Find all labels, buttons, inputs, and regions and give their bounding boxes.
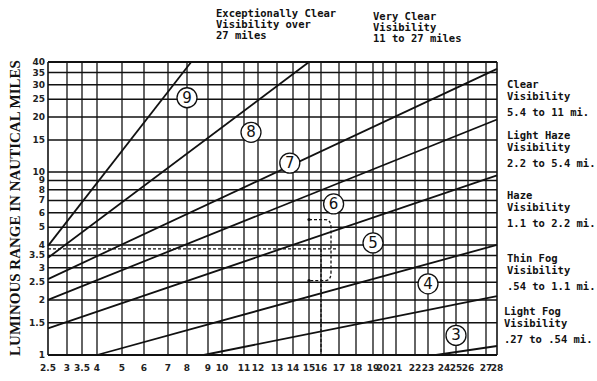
x-tick-label: 26 (462, 363, 475, 373)
annotation-line: Visibility (507, 141, 571, 153)
annotation-light-haze: Light HazeVisibility2.2 to 5.4 mi. (507, 129, 596, 169)
x-tick-label: 9 (205, 363, 211, 373)
x-tick-label: 21 (390, 363, 403, 373)
y-tick-label: 8 (39, 185, 45, 195)
x-tick-label: 16 (315, 363, 328, 373)
annotation-line: .54 to 1.1 mi. (507, 280, 596, 292)
x-tick-label: 28 (491, 363, 504, 373)
y-tick-label: 10 (32, 167, 45, 177)
x-tick-label: 11 (238, 363, 251, 373)
curve-label-number: 5 (368, 234, 378, 252)
annotations: Exceptionally ClearVisibility over27 mil… (216, 7, 596, 345)
series-line-unlabeled (436, 346, 497, 355)
curve-label-7: 7 (280, 153, 300, 173)
y-axis-label: LUMINOUS RANGE IN NAUTICAL MILES (7, 60, 23, 356)
y-tick-label: 3.5 (29, 250, 45, 260)
y-tick-label: 2 (39, 295, 45, 305)
x-tick-label: 3.5 (74, 363, 90, 373)
curve-label-4: 4 (418, 274, 438, 294)
annotation-light-fog: Light FogVisibility.27 to .54 mi. (504, 305, 593, 345)
x-tick-label: 13 (271, 363, 284, 373)
x-tick-label: 2.5 (40, 363, 56, 373)
annotation-line: 2.2 to 5.4 mi. (507, 157, 596, 169)
x-tick-label: 23 (422, 363, 435, 373)
y-tick-label: 6 (39, 208, 45, 218)
x-tick-labels: 2.533.5456789101112131415161718192021222… (40, 363, 503, 373)
x-tick-label: 10 (216, 363, 229, 373)
annotation-line: Thin Fog (507, 252, 558, 264)
curve-label-8: 8 (241, 122, 261, 142)
x-tick-label: 4 (94, 363, 100, 373)
annotation-line: 1.1 to 2.2 mi. (507, 217, 596, 229)
grid (48, 62, 497, 355)
series-lines (48, 62, 497, 355)
series-line-6 (48, 119, 497, 299)
annotation-line: Visibility (507, 201, 571, 213)
series-line-5 (48, 175, 497, 328)
bracket-dot-bottom (307, 279, 310, 282)
curve-label-number: 4 (423, 275, 433, 293)
annotation-line: Visibility (507, 264, 571, 276)
x-tick-label: 3 (64, 363, 70, 373)
curve-label-5: 5 (363, 233, 383, 253)
series-line-9 (48, 62, 191, 246)
chart: 2.533.5456789101112131415161718192021222… (0, 0, 597, 381)
y-tick-label: 40 (32, 57, 45, 67)
x-tick-label: 22 (409, 363, 422, 373)
y-tick-label: 25 (32, 94, 45, 104)
annotation-clear: ClearVisibility5.4 to 11 mi. (507, 78, 589, 118)
x-tick-label: 17 (333, 363, 346, 373)
annotation-exceptionally-clear: Exceptionally ClearVisibility over27 mil… (216, 7, 336, 41)
annotation-thin-fog: Thin FogVisibility.54 to 1.1 mi. (507, 252, 596, 292)
x-tick-label: 6 (141, 363, 147, 373)
x-tick-label: 8 (184, 363, 190, 373)
curve-label-9: 9 (177, 88, 197, 108)
bracket-dot-top (307, 218, 310, 221)
y-tick-label: 7 (39, 195, 45, 205)
x-tick-label: 14 (287, 363, 300, 373)
curve-label-6: 6 (324, 194, 344, 214)
x-tick-label: 12 (252, 363, 265, 373)
dashed-bracket (309, 220, 331, 281)
annotation-line: .27 to .54 mi. (504, 333, 593, 345)
y-tick-label: 2.5 (29, 277, 45, 287)
x-tick-label: 5 (119, 363, 125, 373)
annotation-line: Light Haze (507, 129, 570, 141)
annotation-line: Visibility (507, 90, 571, 102)
annotation-line: Clear (507, 78, 539, 90)
curve-label-3: 3 (446, 325, 466, 345)
annotation-line: 11 to 27 miles (373, 32, 462, 44)
x-tick-label: 25 (450, 363, 463, 373)
x-tick-label: 15 (303, 363, 316, 373)
y-tick-label: 4 (39, 240, 45, 250)
annotation-line: Visibility (504, 317, 568, 329)
y-tick-label: 5 (39, 222, 45, 232)
curve-label-number: 3 (451, 326, 461, 344)
y-tick-labels: 11.522.533.545678910152025303540 (29, 57, 45, 360)
annotation-line: 27 miles (216, 29, 267, 41)
x-tick-label: 7 (165, 363, 171, 373)
x-tick-label: 24 (438, 363, 451, 373)
curve-label-number: 6 (329, 195, 339, 213)
curve-label-number: 8 (246, 123, 256, 141)
x-tick-label: 18 (350, 363, 363, 373)
y-tick-label: 1 (39, 350, 45, 360)
x-tick-label: 20 (377, 363, 390, 373)
y-tick-label: 15 (32, 135, 45, 145)
y-tick-label: 30 (32, 80, 45, 90)
annotation-very-clear: Very ClearVisibility11 to 27 miles (373, 10, 462, 44)
y-tick-label: 20 (32, 112, 45, 122)
y-tick-label: 1.5 (29, 318, 45, 328)
annotation-line: 5.4 to 11 mi. (507, 106, 589, 118)
y-tick-label: 3 (39, 263, 45, 273)
annotation-line: Light Fog (504, 305, 561, 317)
y-tick-label: 35 (32, 68, 45, 78)
annotation-haze: HazeVisibility1.1 to 2.2 mi. (507, 189, 596, 229)
curve-label-number: 7 (285, 154, 295, 172)
series-line-7 (48, 69, 497, 279)
annotation-line: Haze (507, 189, 532, 201)
curve-label-number: 9 (182, 89, 192, 107)
